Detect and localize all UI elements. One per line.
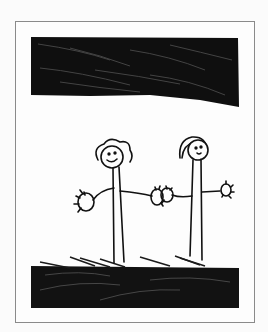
figure-left xyxy=(74,139,163,263)
child-drawing xyxy=(0,0,268,332)
figure-right xyxy=(161,137,234,260)
sky-band xyxy=(31,37,239,107)
ground-band xyxy=(31,256,239,308)
